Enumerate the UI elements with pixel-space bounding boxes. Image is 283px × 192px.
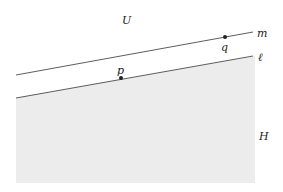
region-label-U: U: [122, 14, 132, 27]
point-q: [223, 35, 227, 39]
diagram-canvas: U H m ℓ q p: [0, 0, 283, 192]
point-label-q: q: [221, 41, 228, 54]
point-label-p: p: [117, 64, 124, 77]
region-label-H: H: [258, 130, 269, 143]
line-label-m: m: [257, 27, 267, 40]
line-label-l: ℓ: [258, 51, 263, 64]
half-plane-H-shade: [16, 56, 255, 183]
